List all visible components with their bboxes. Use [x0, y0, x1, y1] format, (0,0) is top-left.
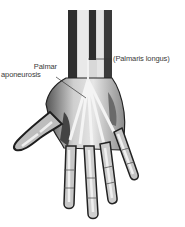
- label-aponeurosis: aponeurosis: [1, 71, 41, 79]
- hand-illustration: Palmar aponeurosis (Palmaris longus): [0, 0, 185, 227]
- forearm: [68, 10, 112, 80]
- hand-drawing: [0, 0, 185, 227]
- label-palmaris-longus: (Palmaris longus): [113, 55, 170, 63]
